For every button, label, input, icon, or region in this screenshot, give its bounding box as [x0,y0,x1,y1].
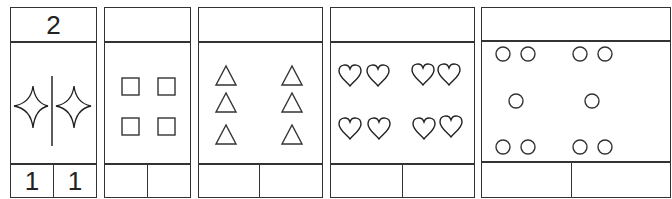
footer-cell-left[interactable]: 1 [11,165,53,197]
square-icon [158,78,175,95]
heart-icon [367,65,389,86]
footer-cell-left[interactable] [331,165,402,197]
square-icon [122,118,139,135]
heart-icon-group [331,41,476,166]
triangle-icon-group [199,41,324,166]
footer-cell-left[interactable] [105,165,147,197]
card-body [11,41,96,166]
square-icon [122,78,139,95]
square-icon [158,118,175,135]
heart-icon [368,118,390,139]
card-header-total[interactable] [331,8,474,43]
card-footer [482,161,670,197]
footer-cell-right[interactable]: 1 [53,165,96,197]
card-footer [199,163,322,197]
card-body [482,40,670,164]
circle-icon [598,140,612,154]
card-body [331,41,474,166]
circle-icon [598,47,612,61]
triangle-icon [216,125,236,144]
heart-icon [440,116,462,137]
circle-icon [509,94,523,108]
circle-icon [496,140,510,154]
circle-icon [573,140,587,154]
circle-icon [521,140,535,154]
heart-icon [339,118,361,139]
heart-icon [339,65,361,86]
circle-icon [496,47,510,61]
circle-icon [585,94,599,108]
card-triangles [198,7,323,198]
card-header-total[interactable] [199,8,322,43]
card-footer: 1 1 [11,163,96,197]
card-header-total: 2 [11,8,96,43]
triangle-icon [282,66,302,85]
total-number: 2 [46,12,60,38]
card-hearts [330,7,475,198]
footer-cell-left[interactable] [482,163,571,197]
footer-cell-right[interactable] [571,163,670,197]
star-icon-group [11,41,98,166]
triangle-icon [282,93,302,112]
heart-icon [413,118,435,139]
triangle-icon [216,66,236,85]
card-body [199,41,322,166]
footer-cell-right[interactable] [259,165,322,197]
footer-cell-right[interactable] [402,165,474,197]
card-body [105,41,190,166]
square-icon-group [105,41,192,166]
card-footer [105,163,190,197]
card-stars: 2 1 1 [10,7,97,198]
footer-cell-right[interactable] [147,165,190,197]
card-footer [331,163,474,197]
card-header-total[interactable] [482,8,670,42]
heart-icon [412,64,434,85]
star-icon [56,86,91,128]
triangle-icon [216,93,236,112]
card-circles [481,7,671,198]
card-squares [104,7,191,198]
circle-icon-group [482,40,672,164]
footer-cell-left[interactable] [199,165,259,197]
card-header-total[interactable] [105,8,190,43]
star-icon [14,86,48,128]
triangle-icon [282,125,302,144]
heart-icon [438,64,460,85]
circle-icon [573,47,587,61]
circle-icon [521,47,535,61]
